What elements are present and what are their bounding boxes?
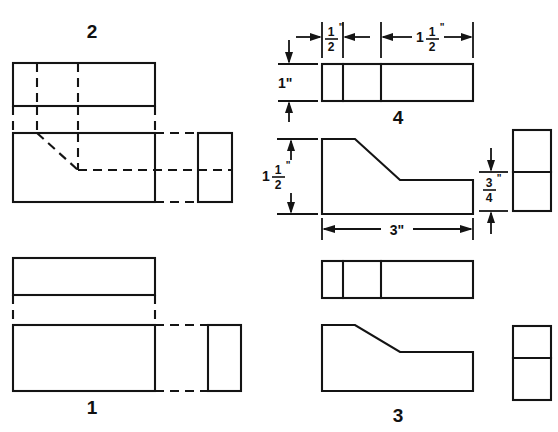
dim-half-arrow-left	[310, 33, 322, 41]
dim-1in-arrow-bottom	[285, 101, 293, 113]
view-2-label: 2	[87, 21, 98, 42]
dim-34-denominator: 4	[486, 191, 493, 205]
dim-three-inch-group: 3"	[322, 218, 473, 240]
dim-1h-arrow-left	[381, 33, 393, 41]
dim-34-numerator: 3	[486, 176, 493, 190]
view-3-top-rect	[322, 261, 473, 298]
dim-1v-inch-mark: "	[286, 160, 291, 171]
view-1-front-rect	[13, 325, 155, 391]
view-4-side-rect	[513, 130, 551, 211]
dim-1v-arrow-bottom	[287, 202, 295, 214]
dim-1v-whole: 1	[262, 168, 270, 184]
dim-1v-denominator: 2	[275, 178, 282, 192]
dim-1in-arrow-top	[285, 52, 293, 64]
view-2-group: 2	[13, 21, 232, 202]
view-3-front-profile	[322, 325, 473, 391]
view-2-top-rect	[13, 63, 155, 106]
view-3-group: 3	[322, 261, 551, 426]
drawing-sheet: 2 1 4	[0, 0, 558, 432]
dim-half-numerator: 1	[328, 25, 335, 39]
dim-one-half-vertical-group: 1 1 " 2	[262, 139, 318, 214]
dim-half-inch-group: 1 " 2	[296, 22, 370, 58]
dim-half-arrow-right	[343, 33, 355, 41]
view-4-top-rect	[322, 64, 473, 101]
dim-1h-arrow-right	[461, 33, 473, 41]
dim-1v-numerator: 1	[275, 163, 282, 177]
dim-three-quarter-group: 3 " 4	[479, 148, 508, 234]
view-4-label: 4	[393, 107, 404, 128]
dim-1in-value: 1"	[278, 75, 292, 91]
dim-one-inch-group: 1"	[278, 40, 318, 122]
dim-1v-arrow-top	[287, 139, 295, 151]
view-2-side-rect	[198, 133, 232, 202]
dim-3in-arrow-left	[322, 225, 335, 233]
dim-3in-arrow-right	[460, 225, 473, 233]
view-3-label: 3	[393, 405, 404, 426]
dim-half-inch-mark: "	[339, 22, 344, 33]
dim-1h-denominator: 2	[429, 40, 436, 54]
view-4-group: 4 1 " 2	[262, 22, 551, 240]
dim-half-denominator: 2	[328, 40, 335, 54]
dim-3in-value: 3"	[390, 222, 404, 238]
dim-34-arrow-bottom	[487, 211, 495, 223]
technical-drawing-canvas: 2 1 4	[0, 0, 558, 432]
dim-1h-whole: 1	[416, 29, 424, 45]
view-1-group: 1	[13, 258, 241, 418]
view-2-front-rect	[13, 133, 155, 202]
dim-34-arrow-top	[487, 160, 495, 172]
view-1-top-rect	[13, 258, 155, 295]
view-2-hidden-chamfer	[37, 133, 78, 170]
dim-1h-numerator: 1	[429, 25, 436, 39]
view-1-side-rect	[208, 325, 241, 391]
dim-1h-inch-mark: "	[440, 22, 445, 33]
view-1-label: 1	[87, 397, 98, 418]
dim-34-inch-mark: "	[497, 173, 502, 184]
dim-one-half-horizontal-group: 1 1 " 2	[381, 22, 473, 58]
view-3-side-rect	[513, 326, 551, 400]
view-4-front-profile	[322, 139, 473, 214]
